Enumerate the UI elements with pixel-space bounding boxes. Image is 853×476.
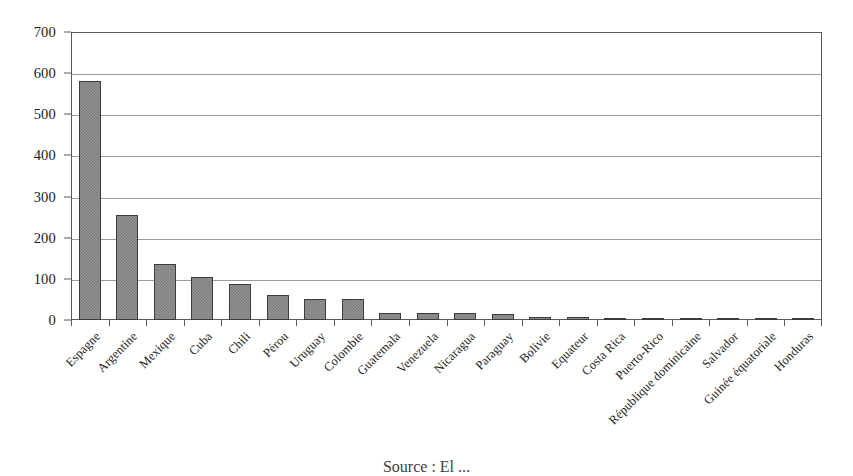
x-tick-label: Paraguay — [473, 330, 516, 373]
x-tick-label: Guinée équatoriale — [701, 330, 779, 408]
bar — [454, 313, 476, 320]
bars-layer — [71, 32, 822, 320]
bar — [417, 313, 439, 320]
y-tick-label: 600 — [34, 66, 56, 81]
bar — [116, 215, 138, 320]
x-tick-label: Pérou — [261, 330, 291, 360]
y-tick-mark — [64, 278, 71, 279]
bar — [191, 277, 213, 320]
bar — [229, 284, 251, 320]
bar — [379, 313, 401, 320]
bar — [267, 295, 289, 320]
source-caption: Source : El ... — [0, 458, 853, 476]
x-tick-label: Argentine — [95, 330, 140, 375]
bar — [79, 81, 101, 320]
y-tick-label: 200 — [34, 230, 56, 245]
y-tick-mark — [64, 114, 71, 115]
y-tick-mark — [64, 196, 71, 197]
y-tick-mark — [64, 32, 71, 33]
bar — [342, 299, 364, 320]
y-tick-mark — [64, 237, 71, 238]
bar — [304, 299, 326, 320]
y-tick-mark — [64, 155, 71, 156]
y-tick-mark — [64, 73, 71, 74]
x-tick-label: Cuba — [187, 330, 215, 358]
x-tick-label: Honduras — [772, 330, 816, 374]
y-tick-label: 300 — [34, 189, 56, 204]
y-tick-label: 400 — [34, 148, 56, 163]
x-tick-label: Chili — [226, 330, 253, 357]
y-tick-label: 700 — [34, 25, 56, 40]
y-axis: 0100200300400500600700 — [0, 32, 64, 320]
y-tick-label: 100 — [34, 272, 56, 287]
y-tick-label: 500 — [34, 107, 56, 122]
x-axis: EspagneArgentineMexiqueCubaChiliPérouUru… — [0, 320, 853, 469]
x-tick-label: Mexique — [137, 330, 178, 371]
bar — [154, 264, 176, 320]
